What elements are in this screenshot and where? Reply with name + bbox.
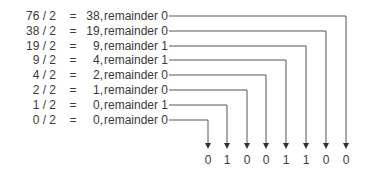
result-bit: 1: [300, 153, 312, 167]
arrowhead-icon: [244, 143, 250, 149]
result-bit: 1: [280, 153, 292, 167]
connector-arrow: [169, 46, 306, 143]
arrowhead-icon: [283, 143, 289, 149]
result-bit: 0: [241, 153, 253, 167]
connector-arrow: [169, 120, 208, 143]
arrowhead-icon: [205, 143, 211, 149]
arrowhead-icon: [323, 143, 329, 149]
connector-arrow: [169, 105, 227, 143]
result-bit: 0: [260, 153, 272, 167]
arrowhead-icon: [343, 143, 349, 149]
result-bit: 0: [202, 153, 214, 167]
arrowhead-icon: [263, 143, 269, 149]
result-bit: 1: [221, 153, 233, 167]
arrowhead-icon: [224, 143, 230, 149]
result-bit: 0: [320, 153, 332, 167]
connector-arrow: [169, 16, 346, 143]
connector-lines: [0, 0, 370, 175]
connector-arrow: [169, 75, 266, 143]
arrowhead-icon: [303, 143, 309, 149]
result-bit: 0: [340, 153, 352, 167]
